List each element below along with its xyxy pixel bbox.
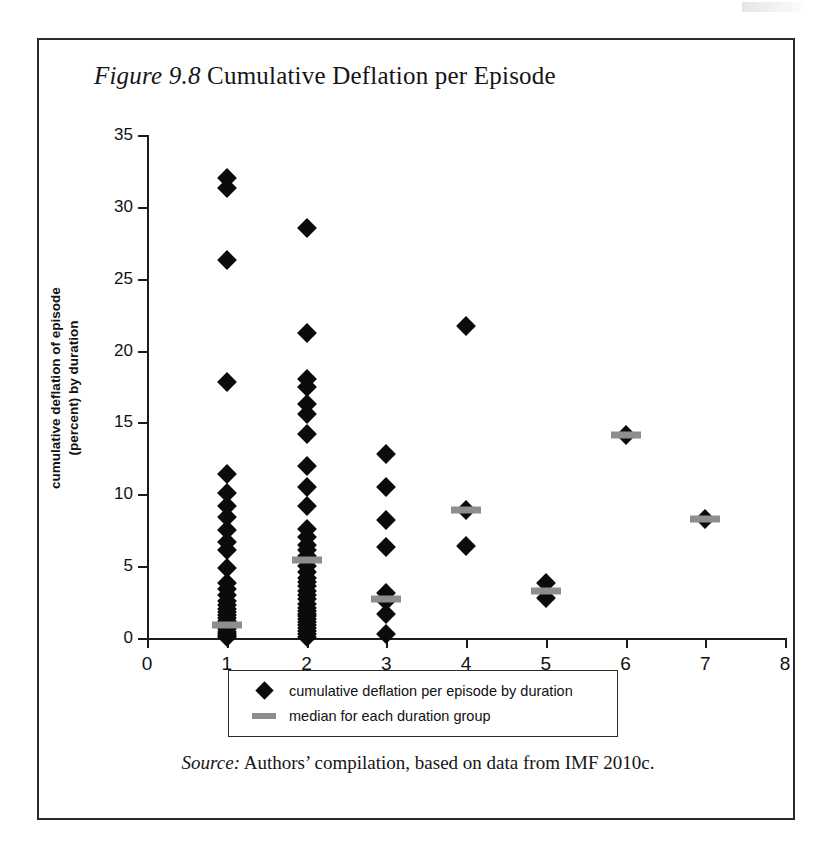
- y-tick: [138, 638, 147, 640]
- figure-title-text: Cumulative Deflation per Episode: [207, 62, 556, 89]
- x-tick: [466, 638, 468, 648]
- data-point: [376, 604, 396, 624]
- y-tick-label: 0: [124, 628, 133, 648]
- figure-frame: Figure 9.8 Cumulative Deflation per Epis…: [37, 38, 795, 820]
- figure-number: Figure 9.8: [94, 62, 201, 89]
- source-note: Source: Authors’ compilation, based on d…: [39, 752, 797, 774]
- median-marker: [292, 557, 322, 564]
- y-tick-label: 30: [114, 197, 133, 217]
- y-tick: [138, 422, 147, 424]
- plot-area: cumulative deflation of episode (percent…: [147, 135, 785, 640]
- diamond-marker-icon: [251, 684, 277, 697]
- legend-label-median: median for each duration group: [289, 708, 491, 724]
- data-point: [297, 323, 317, 343]
- median-marker: [690, 515, 720, 522]
- data-point: [456, 536, 476, 556]
- data-point: [376, 477, 396, 497]
- data-point: [297, 219, 317, 239]
- y-tick: [138, 494, 147, 496]
- legend: cumulative deflation per episode by dura…: [228, 670, 618, 737]
- legend-item-points: cumulative deflation per episode by dura…: [229, 678, 617, 703]
- y-tick: [138, 135, 147, 137]
- data-point: [297, 424, 317, 444]
- data-point: [217, 372, 237, 392]
- data-point: [376, 538, 396, 558]
- source-text: Authors’ compilation, based on data from…: [244, 752, 655, 773]
- y-tick-label: 5: [124, 556, 133, 576]
- x-tick-label: 8: [780, 653, 791, 675]
- data-point: [217, 250, 237, 270]
- median-marker: [611, 432, 641, 439]
- y-tick: [138, 279, 147, 281]
- y-tick-label: 25: [114, 269, 133, 289]
- data-point: [297, 456, 317, 476]
- x-tick: [705, 638, 707, 648]
- median-marker: [371, 596, 401, 603]
- data-point: [297, 496, 317, 516]
- median-marker: [451, 507, 481, 514]
- y-tick: [138, 566, 147, 568]
- x-tick-label: 6: [620, 653, 631, 675]
- y-tick-label: 15: [114, 412, 133, 432]
- y-tick: [138, 351, 147, 353]
- x-tick-label: 7: [700, 653, 711, 675]
- data-point: [297, 477, 317, 497]
- median-marker: [531, 587, 561, 594]
- data-point: [376, 624, 396, 644]
- figure-title: Figure 9.8 Cumulative Deflation per Epis…: [94, 62, 556, 90]
- y-tick-label: 10: [114, 484, 133, 504]
- scan-artifact: [742, 2, 802, 12]
- y-tick-label: 35: [114, 125, 133, 145]
- y-axis-title: cumulative deflation of episode (percent…: [47, 223, 83, 553]
- x-tick: [785, 638, 787, 648]
- x-tick-label: 0: [142, 653, 153, 675]
- dash-marker-icon: [251, 713, 277, 719]
- y-tick-label: 20: [114, 341, 133, 361]
- x-tick: [147, 638, 149, 648]
- x-tick: [546, 638, 548, 648]
- source-word: Source:: [182, 752, 240, 773]
- data-point: [376, 444, 396, 464]
- x-tick: [626, 638, 628, 648]
- data-point: [456, 316, 476, 336]
- data-point: [217, 464, 237, 484]
- data-point: [376, 510, 396, 530]
- y-tick: [138, 207, 147, 209]
- legend-item-median: median for each duration group: [229, 703, 617, 728]
- legend-label-points: cumulative deflation per episode by dura…: [289, 683, 573, 699]
- median-marker: [212, 622, 242, 629]
- y-axis-line: [147, 135, 149, 640]
